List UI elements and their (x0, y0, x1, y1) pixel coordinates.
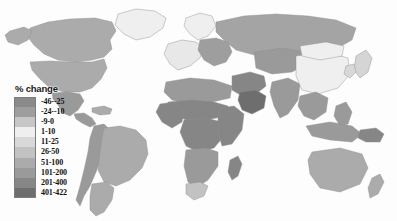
legend-swatch (14, 107, 36, 117)
legend-label: 1-10 (41, 127, 55, 137)
legend-title: % change (15, 84, 90, 94)
legend-row: 51-100 (14, 158, 90, 168)
legend-label: 11-25 (41, 137, 59, 147)
legend-label: 201-400 (41, 178, 67, 188)
legend-swatch (14, 147, 36, 157)
legend-row: 401-422 (14, 188, 90, 198)
legend-swatch (14, 158, 36, 168)
legend-swatch (14, 127, 36, 137)
legend-label: 401-422 (41, 188, 67, 198)
legend-rows: -46--25-24--10-9-01-1011-2526-5051-10010… (14, 97, 90, 199)
map-legend: % change -46--25-24--10-9-01-1011-2526-5… (14, 84, 90, 198)
legend-row: 101-200 (14, 168, 90, 178)
legend-swatch (14, 97, 36, 107)
legend-label: -24--10 (41, 107, 64, 117)
legend-row: 26-50 (14, 147, 90, 157)
legend-row: -46--25 (14, 97, 90, 107)
legend-swatch (14, 168, 36, 178)
legend-swatch (14, 188, 36, 198)
legend-label: -9-0 (41, 117, 54, 127)
legend-label: 26-50 (41, 147, 59, 157)
world-choropleth-map: % change -46--25-24--10-9-01-1011-2526-5… (0, 0, 397, 221)
legend-row: 201-400 (14, 178, 90, 188)
legend-label: -46--25 (41, 97, 64, 107)
legend-row: -24--10 (14, 107, 90, 117)
legend-label: 101-200 (41, 168, 67, 178)
legend-swatch (14, 137, 36, 147)
legend-row: -9-0 (14, 117, 90, 127)
legend-row: 11-25 (14, 137, 90, 147)
legend-swatch (14, 117, 36, 127)
legend-swatch (14, 178, 36, 188)
legend-row: 1-10 (14, 127, 90, 137)
legend-label: 51-100 (41, 158, 63, 168)
